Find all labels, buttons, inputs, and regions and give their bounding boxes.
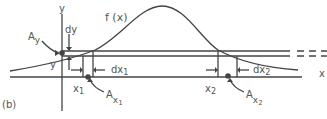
diagram-canvas: y x f (x) (b) dy y Ay x1 x2 dx1 dx2 Ax1 … [0, 0, 327, 119]
dy-label: dy [65, 24, 77, 35]
dx2-label-main: dx [253, 64, 265, 75]
x1-label: x1 [73, 83, 84, 96]
x2-label-sub: 2 [211, 87, 216, 96]
Ay-label: Ay [28, 31, 41, 45]
Ax2-point [225, 73, 231, 79]
curve-label: f (x) [105, 11, 127, 24]
dx2-label-sub: 2 [265, 68, 270, 77]
dx1-label: dx1 [111, 64, 128, 77]
Ax2-label-subsub: 2 [258, 99, 262, 107]
dx1-label-main: dx [111, 64, 123, 75]
Ax1-point [85, 74, 91, 80]
panel-label: (b) [2, 99, 16, 110]
y-value-label: y [50, 59, 56, 70]
Ax2-label: Ax2 [246, 89, 263, 107]
dx1-label-sub: 1 [123, 68, 128, 77]
Ax1-label: Ax1 [106, 89, 123, 107]
Ax1-label-subsub: 1 [118, 99, 122, 107]
x2-label: x2 [205, 83, 216, 96]
x-axis-label: x [319, 68, 325, 79]
Ay-point [59, 50, 65, 56]
Ay-label-sub: y [35, 35, 41, 45]
x1-label-sub: 1 [79, 87, 84, 96]
y-axis-label: y [59, 3, 65, 14]
